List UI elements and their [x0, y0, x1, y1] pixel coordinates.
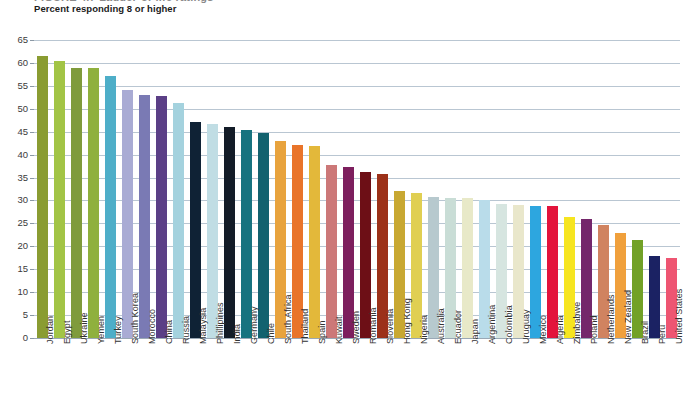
y-axis-tick-label: 50	[2, 104, 28, 114]
bar	[309, 146, 321, 338]
y-axis-tick-label: 35	[2, 173, 28, 183]
x-axis-tick-label: Colombia	[505, 305, 514, 344]
x-axis-tick-label: Yemen	[97, 316, 106, 344]
y-axis-tick-label: 10	[2, 287, 28, 297]
x-axis-tick-label: Argentina	[488, 305, 497, 344]
x-axis-tick-label: Mexico	[539, 315, 548, 344]
x-axis-tick-label: China	[165, 320, 174, 344]
x-axis-tick-label: Germany	[250, 306, 259, 344]
bar	[139, 95, 151, 338]
x-axis-tick-label: Morocco	[148, 309, 157, 344]
x-axis-tick-label: Poland	[590, 315, 599, 344]
y-axis-tick-label: 30	[2, 195, 28, 205]
y-axis-tickmark	[30, 200, 34, 201]
chart-subtitle: Percent responding 8 or higher	[34, 3, 176, 14]
y-axis-tick-label: 60	[2, 58, 28, 68]
gridline	[34, 63, 680, 64]
x-axis-tick-label: Japan	[471, 319, 480, 344]
y-axis-tick-label: 25	[2, 218, 28, 228]
x-axis-tick-label: Slovenia	[386, 309, 395, 344]
x-axis-tick-label: Jordan	[46, 316, 55, 344]
x-axis-tick-label: Peru	[658, 325, 667, 344]
y-axis-tickmark	[30, 338, 34, 339]
x-axis-tick-label: Zimbabwe	[573, 302, 582, 344]
bar	[156, 96, 168, 338]
x-axis-tick-label: New Zealand	[624, 290, 633, 344]
chart-figure: FIGURE 4.7 Ladder-of-life ratings Percen…	[0, 0, 689, 408]
bar	[224, 127, 236, 338]
x-axis-tick-label: Ecuador	[454, 310, 463, 344]
y-axis-tick-label: 65	[2, 35, 28, 45]
bar	[190, 122, 202, 338]
x-axis-tick-label: Algeria	[556, 315, 565, 344]
x-axis-tick-label: Chile	[267, 323, 276, 344]
x-axis-tick-label: Brazil	[641, 321, 650, 344]
bar	[326, 165, 338, 338]
y-axis-tickmark	[30, 132, 34, 133]
x-axis-tick-label: Netherlands	[607, 294, 616, 344]
x-axis-tick-label: India	[233, 324, 242, 344]
y-axis-tickmark	[30, 63, 34, 64]
y-axis-tickmark	[30, 109, 34, 110]
y-axis-tickmark	[30, 223, 34, 224]
x-axis-tick-label: Turkey	[114, 316, 123, 344]
gridline	[34, 40, 680, 41]
x-axis-tick-label: Malaysia	[199, 308, 208, 344]
x-axis-tick-label: Phillipines	[216, 302, 225, 344]
x-axis-tick-label: United States	[675, 289, 684, 344]
y-axis-tickmark	[30, 292, 34, 293]
bar	[88, 68, 100, 338]
y-axis-tickmark	[30, 246, 34, 247]
y-axis-tickmark	[30, 178, 34, 179]
y-axis-tick-label: 5	[2, 310, 28, 320]
y-axis-tick-label: 20	[2, 241, 28, 251]
x-axis-tick-label: South Africa	[284, 294, 293, 344]
x-axis-tick-label: Australia	[437, 308, 446, 344]
x-axis-tick-label: Uruguay	[522, 309, 531, 344]
y-axis-tick-label: 15	[2, 264, 28, 274]
y-axis-tickmark	[30, 155, 34, 156]
x-axis-tick-label: South Korea	[131, 293, 140, 344]
x-axis-labels: JordanEgyptUkraineYemenTurkeySouth Korea…	[34, 342, 680, 408]
x-axis-tick-label: Ukraine	[80, 312, 89, 344]
y-axis-tick-label: 45	[2, 127, 28, 137]
bar	[173, 103, 185, 338]
x-axis-tick-label: Kuwait	[335, 316, 344, 344]
x-axis-tick-label: Spain	[318, 320, 327, 344]
bar	[462, 198, 474, 338]
bar	[37, 56, 49, 338]
x-axis-tick-label: Romania	[369, 307, 378, 344]
y-axis-tick-label: 0	[2, 333, 28, 343]
y-axis-tickmark	[30, 269, 34, 270]
bar	[258, 133, 270, 338]
bar	[105, 76, 117, 338]
y-axis-tickmark	[30, 40, 34, 41]
gridline	[34, 86, 680, 87]
x-axis-tick-label: Nigeria	[420, 315, 429, 344]
x-axis-tick-label: Sweden	[352, 311, 361, 344]
x-axis-tick-label: Russia	[182, 316, 191, 344]
bar	[71, 68, 83, 338]
y-axis-tick-label: 40	[2, 150, 28, 160]
x-axis-tick-label: Hong Kong	[403, 298, 412, 344]
bar	[54, 61, 66, 338]
x-axis-tick-label: Egypt	[63, 320, 72, 344]
y-axis-tickmark	[30, 86, 34, 87]
y-axis-tick-label: 55	[2, 81, 28, 91]
y-axis-tickmark	[30, 315, 34, 316]
x-axis-tick-label: Thailand	[301, 309, 310, 344]
